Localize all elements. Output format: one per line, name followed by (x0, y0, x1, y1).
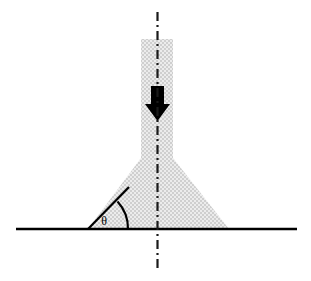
angle-theta-label: θ (101, 214, 107, 228)
mechanics-wedge-figure: θ (0, 0, 311, 281)
diagram-canvas: θ (0, 0, 311, 281)
